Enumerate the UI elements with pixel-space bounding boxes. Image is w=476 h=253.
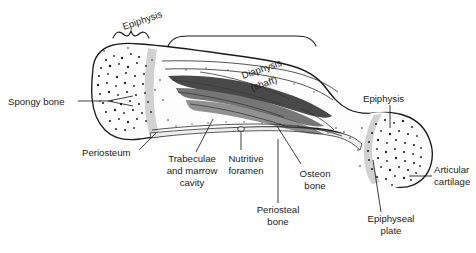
label-articular-line1: Articular: [434, 164, 470, 175]
label-nutritive-line1: Nutritive: [228, 153, 263, 164]
label-articular-line2: cartilage: [434, 176, 470, 187]
label-epiphyseal-line2: plate: [381, 225, 402, 236]
label-nutritive-line2: foramen: [228, 165, 263, 176]
label-epiphyseal-line1: Epiphyseal: [368, 213, 415, 224]
label-trabeculae-line1: Trabeculae: [168, 153, 216, 164]
label-periosteum: Periosteum: [82, 147, 131, 158]
label-trabeculae-line3: cavity: [180, 177, 205, 188]
bone-diagram-figure: Epiphysis Diaphysis (shaft) Epiphysis Sp…: [0, 0, 476, 253]
label-spongy-bone: Spongy bone: [8, 96, 65, 107]
label-periosteal-line2: bone: [267, 216, 288, 227]
long-bone-illustration: Epiphysis Diaphysis (shaft) Epiphysis Sp…: [0, 0, 476, 253]
label-trabeculae-line2: and marrow: [167, 165, 218, 176]
nutritive-foramen-opening: [238, 127, 245, 132]
label-osteon-line1: Osteon: [300, 168, 331, 179]
label-osteon-line2: bone: [304, 180, 325, 191]
label-epiphysis-right: Epiphysis: [363, 93, 404, 104]
label-periosteal-line1: Periosteal: [257, 204, 300, 215]
